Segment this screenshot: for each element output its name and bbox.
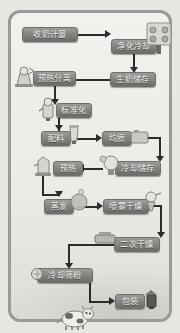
evaporator-icon	[69, 189, 89, 211]
process-node-cooling-storage[interactable]: 冷却储存	[115, 161, 161, 176]
process-node-raw-milk-storage[interactable]: 生奶储存	[110, 72, 156, 87]
process-node-standardization[interactable]: 标准化	[56, 103, 92, 118]
process-node-preheat-separation[interactable]: 预热分离	[33, 71, 76, 86]
node-label: 预热分离	[38, 75, 72, 83]
node-label: 生奶储存	[116, 76, 150, 84]
process-node-milk-receiving[interactable]: 收奶计量	[22, 27, 78, 42]
edge-coolsieving-to-packaging-h	[89, 301, 111, 303]
node-label: 预热	[60, 165, 77, 173]
mixing-tank-icon	[66, 123, 82, 145]
storage-tank-icon	[99, 154, 121, 176]
centrifuge-separator-icon	[144, 21, 174, 55]
node-label: 配料	[48, 135, 65, 143]
node-label: 包装	[122, 298, 139, 306]
flowchart-image: 收奶计量 净化冷却 生奶储存 预热分离	[0, 0, 180, 333]
fluid-bed-dryer-icon	[93, 231, 117, 247]
arrow-head-right	[105, 30, 111, 38]
node-label: 标准化	[61, 107, 86, 115]
edge-rawmilk-to-preheat-separation	[75, 79, 110, 81]
process-node-secondary-drying[interactable]: 二次干燥	[114, 237, 160, 252]
diagram-frame: 收奶计量 净化冷却 生奶储存 预热分离	[8, 10, 172, 322]
arrow-head-down	[55, 191, 63, 197]
edge-receiving-to-purify	[78, 34, 107, 36]
edge-coolsieving-to-packaging-v	[89, 283, 91, 303]
edge-preheat-down	[42, 176, 44, 196]
packaging-machine-icon	[142, 289, 160, 309]
dairy-cow-illustration	[55, 305, 95, 331]
process-node-packaging[interactable]: 包装	[115, 294, 145, 309]
process-node-homogenization[interactable]: 均质	[102, 131, 132, 146]
node-label: 二次干燥	[120, 241, 154, 249]
node-label: 喷雾干燥	[109, 203, 143, 211]
homogenizer-unit-icon	[130, 129, 150, 145]
standardizer-tank-icon	[37, 97, 59, 121]
heat-exchanger-icon	[33, 155, 55, 179]
process-node-preheat[interactable]: 预热	[53, 161, 83, 176]
node-label: 冷却筛粉	[48, 272, 82, 280]
sieve-icon	[30, 267, 44, 281]
node-label: 蒸发	[51, 203, 68, 211]
spray-dryer-icon	[141, 191, 163, 213]
node-label: 收奶计量	[33, 31, 67, 39]
node-label: 均质	[109, 135, 126, 143]
separator-machine-icon	[13, 65, 37, 89]
process-node-cooling-sieving[interactable]: 冷却筛粉	[37, 268, 93, 283]
node-label: 冷却储存	[121, 165, 155, 173]
